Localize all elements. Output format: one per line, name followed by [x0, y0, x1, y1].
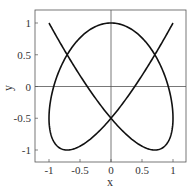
y-tick-label: 0.5	[17, 49, 31, 61]
y-axis-label: y	[1, 85, 15, 91]
x-tick-label: -1	[44, 164, 53, 176]
y-tick-label: -0.5	[14, 112, 32, 124]
plot-frame	[35, 10, 186, 162]
x-tick-label: -0.5	[71, 164, 89, 176]
x-tick-label: 1	[170, 164, 176, 176]
x-tick-label: 0.5	[135, 164, 149, 176]
y-tick-label: 0	[26, 81, 32, 93]
y-tick-label: -1	[22, 144, 31, 156]
y-tick-label: 1	[26, 17, 32, 29]
y-axis-ticks: -1-0.500.51	[14, 17, 38, 156]
lissajous-chart: -1-0.500.51 -1-0.500.51 x y	[0, 0, 194, 190]
x-axis-label: x	[107, 175, 113, 189]
